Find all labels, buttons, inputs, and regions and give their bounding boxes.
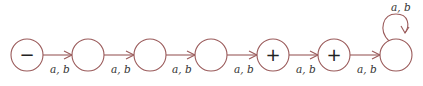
- transition-label: a, b: [50, 63, 70, 75]
- state-s3: [134, 39, 166, 71]
- state-s1-start: −: [11, 39, 43, 71]
- state-s6-final: +: [318, 39, 350, 71]
- transition-label: a, b: [234, 63, 254, 75]
- state-s2: [72, 39, 104, 71]
- transition-label: a, b: [172, 63, 192, 75]
- transition-s4-s5: a, b: [227, 51, 257, 75]
- transition-s1-s2: a, b: [43, 51, 72, 75]
- transition-label: a, b: [296, 63, 316, 75]
- start-marker-icon: −: [19, 44, 34, 65]
- state-s7: [380, 39, 412, 71]
- state-s5-final: +: [257, 39, 289, 71]
- transition-s7-self-loop: a, b: [383, 1, 411, 41]
- transition-s6-s7: a, b: [350, 51, 380, 75]
- automaton-diagram: a, b a, b a, b a, b a, b a, b a, b −: [0, 0, 423, 86]
- transition-label: a, b: [111, 63, 131, 75]
- transition-s2-s3: a, b: [104, 51, 134, 75]
- transition-label: a, b: [391, 1, 411, 13]
- transition-s5-s6: a, b: [289, 51, 318, 75]
- state-s4: [195, 39, 227, 71]
- final-marker-icon: +: [265, 44, 280, 65]
- final-marker-icon: +: [326, 44, 341, 65]
- transition-label: a, b: [357, 63, 377, 75]
- transition-s3-s4: a, b: [166, 51, 195, 75]
